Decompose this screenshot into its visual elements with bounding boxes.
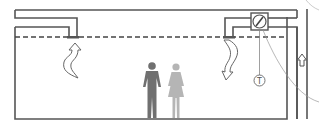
rising-airflow-arrow bbox=[64, 43, 81, 78]
falling-airflow-arrow bbox=[222, 40, 238, 80]
man-figure bbox=[143, 62, 161, 118]
edge-curve bbox=[306, 0, 319, 10]
ventilation-diagram: T bbox=[0, 0, 319, 129]
damper-fan bbox=[251, 13, 268, 30]
return-diffuser bbox=[223, 36, 235, 39]
control-curve bbox=[263, 30, 319, 102]
supply-diffuser bbox=[67, 36, 79, 39]
woman-figure bbox=[168, 63, 184, 118]
thermostat-label: T bbox=[256, 77, 262, 86]
thermostat: T bbox=[254, 30, 265, 86]
up-arrow bbox=[298, 54, 307, 66]
